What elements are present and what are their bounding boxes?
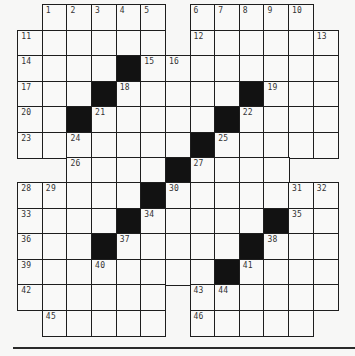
grid-cell[interactable] [66, 259, 92, 286]
grid-cell[interactable] [214, 157, 240, 184]
grid-cell[interactable]: 29 [42, 182, 68, 209]
grid-cell[interactable] [42, 208, 68, 235]
grid-cell[interactable] [91, 182, 117, 209]
grid-cell[interactable] [66, 30, 92, 57]
grid-cell[interactable] [116, 157, 142, 184]
grid-cell[interactable] [66, 284, 92, 311]
grid-cell[interactable] [214, 233, 240, 260]
grid-cell[interactable]: 15 [140, 55, 166, 82]
grid-cell[interactable] [288, 310, 314, 337]
grid-cell[interactable]: 38 [263, 233, 289, 260]
grid-cell[interactable]: 27 [190, 157, 216, 184]
grid-cell[interactable] [214, 310, 240, 337]
grid-cell[interactable]: 6 [190, 4, 216, 31]
grid-cell[interactable]: 10 [288, 4, 314, 31]
grid-cell[interactable] [116, 30, 142, 57]
grid-cell[interactable] [66, 55, 92, 82]
grid-cell[interactable]: 8 [239, 4, 265, 31]
grid-cell[interactable]: 25 [214, 132, 240, 159]
grid-cell[interactable] [190, 259, 216, 286]
grid-cell[interactable]: 3 [91, 4, 117, 31]
grid-cell[interactable] [42, 259, 68, 286]
grid-cell[interactable] [263, 310, 289, 337]
grid-cell[interactable] [239, 132, 265, 159]
grid-cell[interactable] [42, 284, 68, 311]
grid-cell[interactable]: 22 [239, 106, 265, 133]
grid-cell[interactable] [263, 259, 289, 286]
grid-cell[interactable]: 42 [17, 284, 43, 311]
grid-cell[interactable] [165, 208, 191, 235]
grid-cell[interactable] [116, 310, 142, 337]
grid-cell[interactable]: 23 [17, 132, 43, 159]
grid-cell[interactable] [165, 132, 191, 159]
grid-cell[interactable] [313, 208, 339, 235]
grid-cell[interactable]: 30 [165, 182, 191, 209]
grid-cell[interactable] [91, 310, 117, 337]
grid-cell[interactable] [313, 106, 339, 133]
grid-cell[interactable]: 36 [17, 233, 43, 260]
grid-cell[interactable] [263, 106, 289, 133]
grid-cell[interactable]: 39 [17, 259, 43, 286]
grid-cell[interactable]: 12 [190, 30, 216, 57]
grid-cell[interactable] [42, 132, 68, 159]
grid-cell[interactable] [190, 208, 216, 235]
grid-cell[interactable] [214, 55, 240, 82]
grid-cell[interactable] [116, 132, 142, 159]
grid-cell[interactable] [66, 233, 92, 260]
grid-cell[interactable] [140, 259, 166, 286]
grid-cell[interactable] [288, 81, 314, 108]
grid-cell[interactable] [214, 208, 240, 235]
grid-cell[interactable] [190, 106, 216, 133]
grid-cell[interactable] [116, 182, 142, 209]
grid-cell[interactable] [42, 55, 68, 82]
grid-cell[interactable] [66, 182, 92, 209]
grid-cell[interactable] [140, 157, 166, 184]
grid-cell[interactable] [116, 284, 142, 311]
grid-cell[interactable] [313, 55, 339, 82]
grid-cell[interactable]: 4 [116, 4, 142, 31]
grid-cell[interactable]: 40 [91, 259, 117, 286]
grid-cell[interactable]: 41 [239, 259, 265, 286]
grid-cell[interactable] [165, 106, 191, 133]
grid-cell[interactable] [116, 259, 142, 286]
grid-cell[interactable] [313, 81, 339, 108]
grid-cell[interactable] [288, 106, 314, 133]
grid-cell[interactable] [239, 30, 265, 57]
grid-cell[interactable] [66, 208, 92, 235]
grid-cell[interactable] [263, 55, 289, 82]
grid-cell[interactable]: 18 [116, 81, 142, 108]
grid-cell[interactable]: 45 [42, 310, 68, 337]
grid-cell[interactable] [140, 106, 166, 133]
grid-cell[interactable] [288, 233, 314, 260]
grid-cell[interactable] [66, 310, 92, 337]
grid-cell[interactable] [313, 233, 339, 260]
grid-cell[interactable]: 37 [116, 233, 142, 260]
grid-cell[interactable] [288, 259, 314, 286]
grid-cell[interactable] [91, 284, 117, 311]
grid-cell[interactable] [91, 208, 117, 235]
grid-cell[interactable]: 34 [140, 208, 166, 235]
grid-cell[interactable] [190, 182, 216, 209]
grid-cell[interactable] [42, 30, 68, 57]
grid-cell[interactable] [190, 81, 216, 108]
grid-cell[interactable] [91, 55, 117, 82]
grid-cell[interactable] [66, 81, 92, 108]
grid-cell[interactable] [140, 310, 166, 337]
grid-cell[interactable]: 5 [140, 4, 166, 31]
grid-cell[interactable] [239, 310, 265, 337]
grid-cell[interactable] [214, 30, 240, 57]
grid-cell[interactable] [165, 259, 191, 286]
grid-cell[interactable] [140, 132, 166, 159]
grid-cell[interactable] [140, 81, 166, 108]
grid-cell[interactable] [91, 157, 117, 184]
grid-cell[interactable] [140, 233, 166, 260]
grid-cell[interactable] [214, 81, 240, 108]
grid-cell[interactable] [263, 132, 289, 159]
grid-cell[interactable] [288, 55, 314, 82]
grid-cell[interactable] [239, 157, 265, 184]
grid-cell[interactable] [263, 284, 289, 311]
grid-cell[interactable]: 32 [313, 182, 339, 209]
grid-cell[interactable] [42, 233, 68, 260]
grid-cell[interactable]: 24 [66, 132, 92, 159]
grid-cell[interactable] [239, 55, 265, 82]
